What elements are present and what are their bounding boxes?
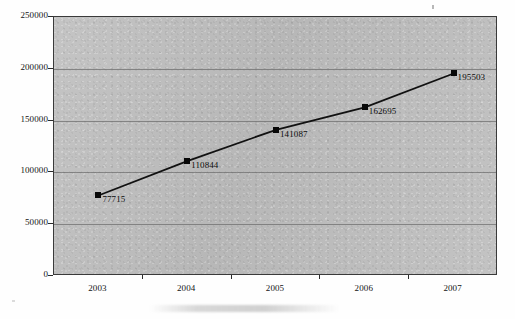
y-axis-tick-mark bbox=[48, 275, 53, 276]
plot-area: 77715110844141087162695195503 bbox=[53, 16, 497, 275]
data-point-marker bbox=[184, 158, 190, 164]
y-axis-tick-label: 200000 bbox=[0, 62, 48, 72]
data-point-marker bbox=[451, 70, 457, 76]
data-point-label: 162695 bbox=[369, 106, 397, 116]
x-axis-tick-mark bbox=[231, 275, 232, 279]
x-axis-tick-label: 2004 bbox=[142, 283, 230, 293]
series-polyline bbox=[98, 74, 453, 196]
data-point-label: 195503 bbox=[458, 72, 486, 82]
y-axis-tick-label: 50000 bbox=[0, 217, 48, 227]
x-axis-tick-label: 2005 bbox=[231, 283, 319, 293]
x-axis-tick-label: 2003 bbox=[53, 283, 141, 293]
x-axis-tick-mark bbox=[142, 275, 143, 279]
y-axis-tick-label: 150000 bbox=[0, 114, 48, 124]
x-axis-tick-mark bbox=[319, 275, 320, 279]
x-axis-tick-label: 2006 bbox=[320, 283, 408, 293]
scan-speck bbox=[432, 5, 434, 9]
data-point-marker bbox=[362, 104, 368, 110]
series-line bbox=[54, 17, 498, 276]
x-axis-tick-label: 2007 bbox=[409, 283, 497, 293]
scan-speck bbox=[12, 300, 15, 302]
data-point-label: 110844 bbox=[191, 160, 218, 170]
chart-screenshot: 050000100000150000200000250000 777151108… bbox=[0, 0, 515, 319]
y-axis-tick-label: 100000 bbox=[0, 165, 48, 175]
x-axis-tick-mark bbox=[408, 275, 409, 279]
data-point-marker bbox=[95, 192, 101, 198]
data-point-marker bbox=[273, 127, 279, 133]
y-axis-tick-label: 250000 bbox=[0, 10, 48, 20]
y-axis-tick-label: 0 bbox=[0, 269, 48, 279]
data-point-label: 77715 bbox=[102, 194, 125, 204]
data-point-label: 141087 bbox=[280, 129, 308, 139]
scan-smudge bbox=[150, 305, 340, 312]
